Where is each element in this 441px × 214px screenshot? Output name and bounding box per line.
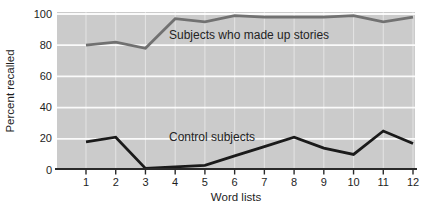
plot-area: Subjects who made up stories Control sub… — [57, 12, 415, 170]
x-tick-label: 3 — [133, 176, 157, 188]
x-tick-label: 2 — [104, 176, 128, 188]
x-axis-title: Word lists — [57, 191, 415, 203]
y-tick-label: 20 — [16, 132, 52, 144]
y-tick-label: 100 — [16, 8, 52, 20]
y-tick-label: 60 — [16, 70, 52, 82]
y-tick-label: 0 — [16, 164, 52, 176]
y-axis-title: Percent recalled — [4, 49, 16, 132]
x-tick-label: 6 — [223, 176, 247, 188]
x-tick-label: 7 — [252, 176, 276, 188]
x-tick-label: 1 — [74, 176, 98, 188]
x-tick-label: 8 — [282, 176, 306, 188]
x-tick-label: 10 — [342, 176, 366, 188]
series-label-control-subjects: Control subjects — [169, 130, 255, 144]
x-tick-label: 9 — [312, 176, 336, 188]
series-label-story-subjects: Subjects who made up stories — [169, 28, 329, 42]
line-chart-figure: Percent recalled 020406080100 Subjects w… — [0, 0, 441, 214]
y-tick-label: 40 — [16, 101, 52, 113]
x-tick-label: 12 — [401, 176, 425, 188]
x-tick-label: 4 — [163, 176, 187, 188]
x-tick-label: 5 — [193, 176, 217, 188]
y-tick-label: 80 — [16, 39, 52, 51]
x-tick-label: 11 — [371, 176, 395, 188]
